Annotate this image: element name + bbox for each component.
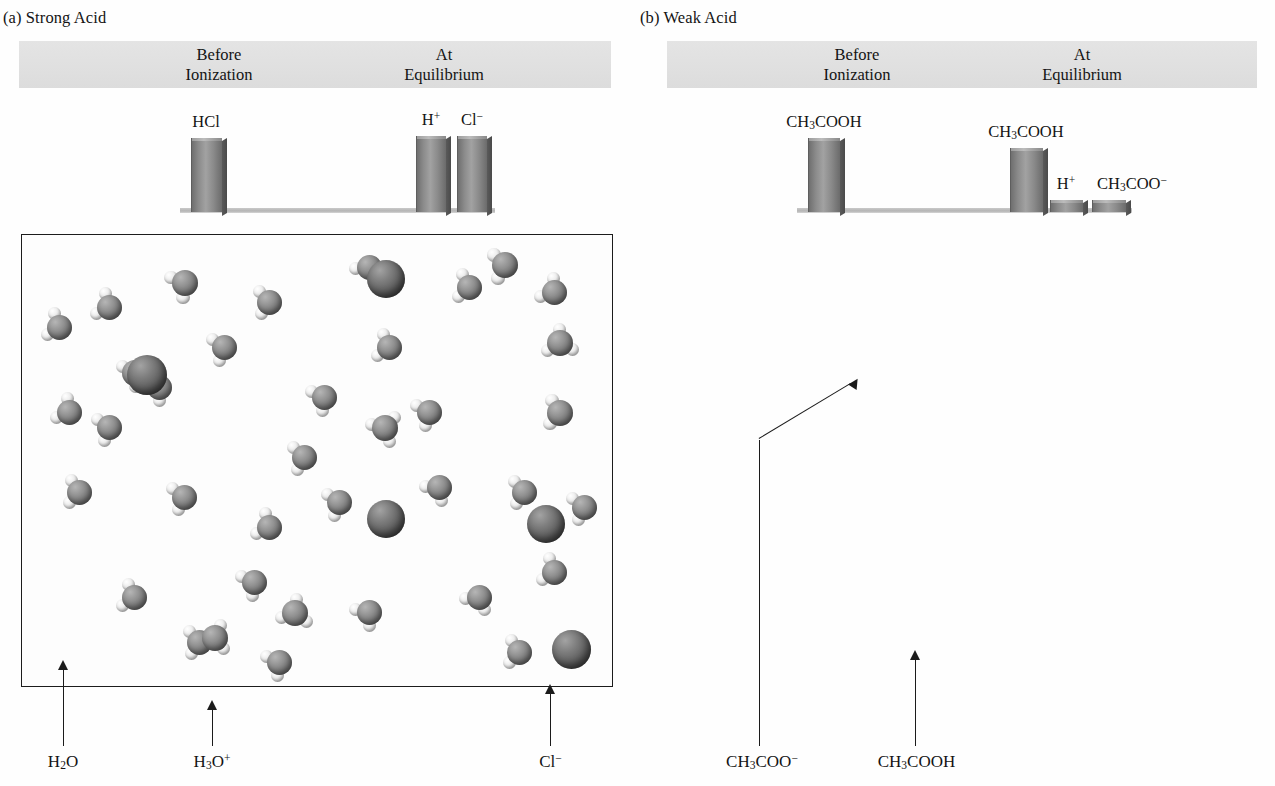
panel-b-callout-label-acetate: CH3COO− bbox=[697, 752, 827, 772]
panel-a-callout-line-chloride bbox=[550, 692, 551, 746]
water-molecule bbox=[307, 380, 341, 414]
panel-strong-acid: (a) Strong Acid Before Ionization At Equ… bbox=[0, 0, 637, 786]
panel-a-callout-line-water bbox=[63, 668, 64, 746]
oxygen-atom bbox=[257, 515, 282, 540]
oxygen-atom bbox=[542, 560, 567, 585]
panel-b-header-band: Before Ionization At Equilibrium bbox=[667, 41, 1257, 88]
water-molecule bbox=[567, 490, 601, 524]
oxygen-atom bbox=[492, 252, 518, 278]
panel-a-bar-label-hcl: HCl bbox=[166, 112, 246, 132]
panel-a-molecule-box bbox=[21, 234, 613, 687]
panel-a-callout-label-hydronium: H3O+ bbox=[167, 752, 257, 772]
chloride-ion bbox=[527, 505, 565, 543]
water-molecule bbox=[372, 330, 406, 364]
panel-a-bar-hcl bbox=[191, 138, 222, 212]
panel-a-title: (a) Strong Acid bbox=[3, 8, 106, 28]
water-molecule bbox=[507, 475, 541, 509]
water-molecule bbox=[92, 410, 126, 444]
chloride-ion bbox=[127, 355, 167, 395]
oxygen-atom bbox=[572, 495, 597, 520]
panel-a-callout-arrow-chloride bbox=[545, 684, 555, 694]
oxygen-atom bbox=[202, 625, 228, 651]
panel-b-callout-line-acetate bbox=[759, 440, 760, 746]
water-molecule bbox=[167, 265, 203, 301]
bar-label-text: Cl− bbox=[461, 110, 483, 129]
oxygen-atom bbox=[377, 335, 402, 360]
callout-text: Cl− bbox=[539, 752, 562, 771]
panel-b-bar-label-acid-before: CH3COOH bbox=[754, 112, 894, 132]
bar-side-face bbox=[222, 138, 227, 216]
water-molecule bbox=[167, 480, 201, 514]
hydronium-ion bbox=[277, 595, 313, 631]
water-molecule bbox=[412, 395, 446, 429]
panel-b-bar-chart: CH3COOH CH3COOH H+ CH3COO− bbox=[637, 96, 1275, 220]
water-molecule bbox=[352, 595, 386, 629]
panel-b-bar-acid-before bbox=[808, 138, 840, 212]
water-molecule bbox=[487, 247, 523, 283]
oxygen-atom bbox=[57, 400, 82, 425]
oxygen-atom bbox=[257, 290, 282, 315]
panel-b-before-label: Before Ionization bbox=[767, 45, 947, 85]
panel-a-callout-label-water: H2O bbox=[23, 752, 103, 772]
chloride-sphere bbox=[527, 505, 565, 543]
panel-b-bar-label-acid-equilibrium: CH3COOH bbox=[956, 122, 1096, 142]
oxygen-atom bbox=[292, 445, 317, 470]
panel-a-callout-arrow-hydronium bbox=[207, 700, 217, 710]
water-molecule bbox=[542, 395, 578, 431]
chloride-sphere bbox=[552, 630, 591, 669]
bar-side-face bbox=[446, 136, 451, 216]
callout-text: CH3COOH bbox=[878, 752, 956, 771]
oxygen-atom bbox=[542, 280, 567, 305]
water-molecule bbox=[502, 635, 536, 669]
panel-a-bar-h-plus bbox=[416, 136, 446, 212]
oxygen-atom bbox=[282, 600, 308, 626]
panel-a-callout-label-chloride: Cl− bbox=[513, 752, 588, 772]
chloride-sphere bbox=[127, 355, 167, 395]
oxygen-atom bbox=[267, 650, 292, 675]
bar-label-text: HCl bbox=[192, 112, 220, 131]
panel-b-callout-arrow-acid bbox=[910, 650, 920, 660]
bar-side-face bbox=[840, 138, 845, 216]
oxygen-atom bbox=[97, 415, 122, 440]
oxygen-atom bbox=[547, 400, 573, 426]
water-molecule bbox=[287, 440, 321, 474]
water-molecule bbox=[452, 270, 486, 304]
water-molecule bbox=[262, 645, 296, 679]
oxygen-atom bbox=[417, 400, 442, 425]
water-molecule bbox=[422, 470, 456, 504]
bar-label-text: CH3COOH bbox=[988, 122, 1063, 141]
oxygen-atom bbox=[507, 640, 532, 665]
panel-a-callout-arrow-water bbox=[58, 660, 68, 670]
oxygen-atom bbox=[312, 385, 337, 410]
panel-a-before-label: Before Ionization bbox=[129, 45, 309, 85]
panel-b-callout-label-acid: CH3COOH bbox=[849, 752, 984, 772]
water-molecule bbox=[117, 580, 151, 614]
oxygen-atom bbox=[372, 415, 398, 441]
panel-b-bar-acetate bbox=[1092, 200, 1126, 212]
oxygen-atom bbox=[97, 295, 122, 320]
panel-a-bar-chart: HCl H+ Cl− bbox=[0, 96, 637, 220]
panel-b-callout-arrow-acetate bbox=[848, 376, 862, 390]
water-molecule bbox=[62, 475, 96, 509]
water-molecule bbox=[537, 275, 571, 309]
oxygen-atom bbox=[242, 570, 267, 595]
oxygen-atom bbox=[67, 480, 92, 505]
water-molecule bbox=[52, 395, 86, 429]
chloride-sphere bbox=[367, 260, 405, 298]
panel-a-bar-label-cl-minus: Cl− bbox=[432, 110, 512, 130]
chloride-ion bbox=[552, 630, 591, 669]
oxygen-atom bbox=[357, 600, 382, 625]
chloride-ion bbox=[367, 260, 405, 298]
callout-text: H3O+ bbox=[194, 752, 231, 771]
oxygen-atom bbox=[172, 270, 198, 296]
callout-text: H2O bbox=[48, 752, 78, 771]
panel-b-title: (b) Weak Acid bbox=[640, 8, 737, 28]
panel-b-bar-label-acetate: CH3COO− bbox=[1042, 174, 1222, 194]
oxygen-atom bbox=[212, 335, 237, 360]
panel-b-callout-line-acid bbox=[915, 658, 916, 746]
panel-a-bar-cl-minus bbox=[457, 136, 487, 212]
callout-text: CH3COO− bbox=[726, 752, 798, 771]
water-molecule bbox=[42, 310, 76, 344]
panel-b-equilibrium-label: At Equilibrium bbox=[987, 45, 1177, 85]
oxygen-atom bbox=[47, 315, 72, 340]
